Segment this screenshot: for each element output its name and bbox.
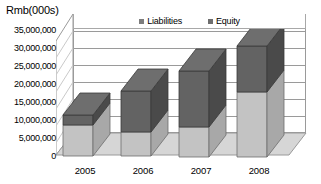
legend-label: Liabilities bbox=[147, 17, 182, 26]
x-axis-tick-label: 2007 bbox=[178, 165, 224, 176]
y-axis-tick-label: 25,000,000 bbox=[14, 62, 56, 71]
legend-label: Equity bbox=[216, 17, 240, 26]
legend-swatch-icon bbox=[208, 19, 213, 24]
bar-2005 bbox=[63, 84, 123, 156]
bar-2007 bbox=[179, 47, 239, 157]
legend-swatch-icon bbox=[139, 19, 144, 24]
legend-item-equity: Equity bbox=[208, 17, 240, 26]
x-axis-tick-label: 2006 bbox=[120, 165, 166, 176]
y-axis-tick-label: 5,000,000 bbox=[19, 134, 56, 143]
y-axis-tick-label: 0 bbox=[51, 152, 56, 161]
y-axis-tick-label: 20,000,000 bbox=[14, 80, 56, 89]
y-axis-tick-labels: 35,000,000 30,000,000 25,000,000 20,000,… bbox=[0, 0, 56, 184]
bar-2006 bbox=[121, 66, 181, 156]
legend-item-liabilities: Liabilities bbox=[139, 17, 182, 26]
chart-legend: Liabilities Equity bbox=[73, 14, 306, 29]
y-axis-tick-label: 35,000,000 bbox=[14, 26, 56, 35]
y-axis-tick-label: 30,000,000 bbox=[14, 44, 56, 53]
y-axis-tick-label: 10,000,000 bbox=[14, 116, 56, 125]
bar-2008 bbox=[237, 14, 297, 157]
x-axis-tick-label: 2005 bbox=[62, 165, 108, 176]
y-axis-tick-label: 15,000,000 bbox=[14, 98, 56, 107]
chart-container: Rmb(000s) bbox=[0, 0, 321, 184]
x-axis-tick-label: 2008 bbox=[236, 165, 282, 176]
